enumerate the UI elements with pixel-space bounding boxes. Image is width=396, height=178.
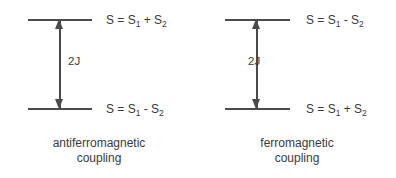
arrow-shaft [59,19,61,109]
lower-level-state-label: S = S1 - S2 [106,102,164,117]
upper-level-state-sub2: 2 [359,19,364,29]
panel-caption-line-1: antiferromagnetic [0,136,198,151]
upper-level-state-label: S = S1 - S2 [306,13,364,28]
arrow-head-up-icon [55,19,63,29]
upper-level-state-label: S = S1 + S2 [106,13,167,28]
upper-level-state-sub1: 1 [336,19,341,29]
arrow-head-up-icon [252,19,260,29]
lower-level-state-label: S = S1 + S2 [306,102,367,117]
lower-level-state-operator: + S [340,102,362,116]
upper-level-state-prefix: S = S [306,13,336,27]
upper-level-state-sub1: 1 [136,19,141,29]
coupling-constant-label: 2J [68,55,80,68]
lower-level-state-prefix: S = S [106,102,136,116]
upper-level-state-sub2: 2 [162,19,167,29]
lower-level-state-sub1: 1 [336,108,341,118]
arrow-head-down-icon [55,99,63,109]
upper-level-state-prefix: S = S [106,13,136,27]
panel-antiferromagnetic: 2J S = S1 + S2 S = S1 - S2 antiferromagn… [0,0,198,178]
panel-caption-line-2: coupling [0,151,198,166]
panel-caption-line-2: coupling [198,151,396,166]
lower-level-state-sub2: 2 [159,108,164,118]
panel-caption: antiferromagnetic coupling [0,136,198,166]
coupling-arrow [54,19,66,109]
panel-caption: ferromagnetic coupling [198,136,396,166]
arrow-head-down-icon [252,99,260,109]
lower-level-state-operator: - S [140,102,159,116]
upper-level-state-operator: + S [140,13,162,27]
panel-caption-line-1: ferromagnetic [198,136,396,151]
lower-level-state-prefix: S = S [306,102,336,116]
lower-level-state-sub2: 2 [362,108,367,118]
upper-level-state-operator: - S [340,13,359,27]
energy-level-diagram: 2J S = S1 + S2 S = S1 - S2 antiferromagn… [0,0,396,178]
coupling-constant-label: 2J [248,55,260,68]
lower-level-state-sub1: 1 [136,108,141,118]
panel-ferromagnetic: 2J S = S1 - S2 S = S1 + S2 ferromagnetic… [198,0,396,178]
